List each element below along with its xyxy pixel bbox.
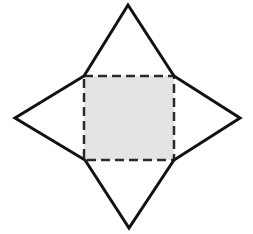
geometry-figure-canvas	[0, 0, 253, 234]
geometry-figure-svg	[0, 0, 253, 234]
shaded-dashed-square	[84, 76, 174, 160]
